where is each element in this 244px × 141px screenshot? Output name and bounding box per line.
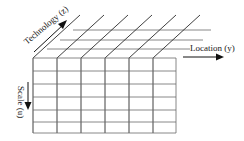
diagonal-line-3 xyxy=(81,15,128,58)
location-axis: Location (y) xyxy=(183,43,235,61)
front-face-horizontal-lines xyxy=(33,58,176,133)
grid-cube-diagram: Technology (z) Location (y) Scale (u) xyxy=(0,0,244,141)
scale-axis-label: Scale (u) xyxy=(16,86,26,118)
top-face-horizontal-lines xyxy=(47,30,211,49)
location-axis-label: Location (y) xyxy=(190,43,235,53)
scale-axis: Scale (u) xyxy=(16,82,32,118)
diagonal-line-5 xyxy=(129,15,176,58)
location-arrow-head-icon xyxy=(216,54,224,61)
technology-axis: Technology (z) xyxy=(22,4,70,52)
diagonal-line-4 xyxy=(105,15,152,58)
